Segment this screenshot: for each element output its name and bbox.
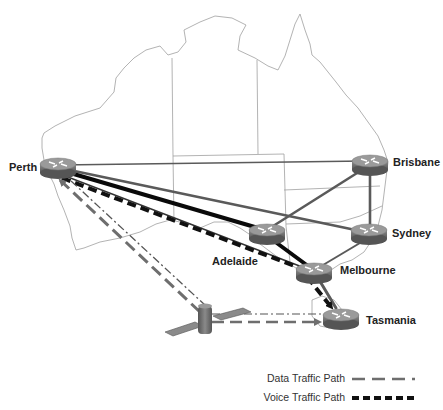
satellite-icon[interactable] [165,304,251,337]
legend-data-label: Data Traffic Path [255,372,345,384]
router-adelaide[interactable] [249,224,285,245]
label-perth: Perth [9,161,37,173]
label-brisbane: Brisbane [393,156,440,168]
link-perth-brisbane [60,161,365,165]
data-traffic-path [60,180,322,322]
legend [352,379,415,398]
network-links [60,161,370,308]
router-sydney[interactable] [351,224,387,245]
label-tasmania: Tasmania [366,314,416,326]
router-perth[interactable] [40,158,76,179]
router-melbourne[interactable] [296,263,332,284]
label-sydney: Sydney [392,227,431,239]
australia-map [42,14,388,328]
router-brisbane[interactable] [352,155,388,176]
network-diagram [0,0,443,410]
router-tasmania[interactable] [323,309,359,330]
label-adelaide: Adelaide [212,255,258,267]
legend-voice-label: Voice Traffic Path [250,391,345,403]
label-melbourne: Melbourne [340,264,396,276]
